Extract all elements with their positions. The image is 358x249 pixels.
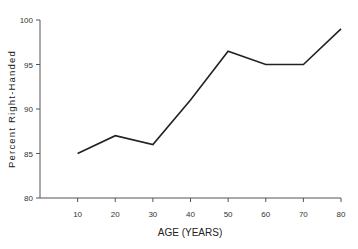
y-axis-label: Percent Right-Handed	[6, 50, 17, 168]
x-tick-label: 60	[261, 210, 270, 219]
y-tick-label: 100	[20, 16, 34, 25]
y-tick-label: 80	[24, 194, 33, 203]
x-tick-label: 50	[224, 210, 233, 219]
x-tick-label: 30	[148, 210, 157, 219]
y-ticks: 80859095100	[20, 16, 40, 203]
x-tick-label: 70	[299, 210, 308, 219]
y-tick-label: 95	[24, 61, 33, 70]
y-tick-label: 85	[24, 150, 33, 159]
x-tick-label: 20	[111, 210, 120, 219]
x-tick-label: 80	[337, 210, 346, 219]
x-tick-label: 10	[73, 210, 82, 219]
axes	[40, 20, 341, 198]
x-ticks: 1020304050607080	[73, 198, 346, 219]
x-axis-label: AGE (YEARS)	[158, 227, 222, 238]
x-tick-label: 40	[186, 210, 195, 219]
y-tick-label: 90	[24, 105, 33, 114]
data-line	[78, 29, 341, 154]
line-chart: 80859095100 1020304050607080 AGE (YEARS)…	[0, 0, 358, 249]
